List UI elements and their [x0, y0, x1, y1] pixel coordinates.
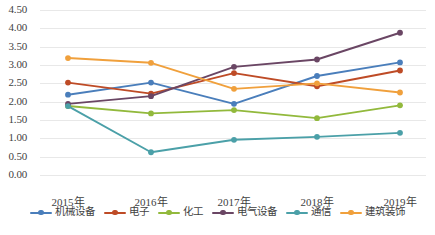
- gridline: [40, 175, 426, 176]
- y-axis-tick-label: 2.50: [0, 77, 27, 88]
- data-point: [231, 86, 237, 92]
- data-point: [231, 101, 237, 107]
- series-lines: [40, 10, 426, 175]
- legend-item-建筑装饰[interactable]: 建筑装饰: [340, 207, 405, 218]
- data-point: [397, 30, 403, 36]
- legend-item-电气设备[interactable]: 电气设备: [212, 207, 277, 218]
- series-电子: [65, 68, 403, 97]
- data-point: [397, 102, 403, 108]
- y-axis-tick-label: 1.00: [0, 132, 27, 143]
- data-point: [314, 73, 320, 79]
- data-point: [148, 80, 154, 86]
- data-point: [148, 93, 154, 99]
- data-point: [65, 55, 71, 61]
- series-电气设备: [65, 30, 403, 107]
- legend-label: 电气设备: [237, 207, 277, 218]
- legend-label: 建筑装饰: [365, 207, 405, 218]
- y-axis-tick-label: 1.50: [0, 114, 27, 125]
- data-point: [314, 57, 320, 63]
- data-point: [314, 80, 320, 86]
- data-point: [231, 70, 237, 76]
- legend-marker-icon: [104, 208, 126, 217]
- y-axis-tick-label: 4.50: [0, 4, 27, 15]
- y-axis-tick-label: 4.00: [0, 22, 27, 33]
- data-point: [65, 103, 71, 109]
- data-point: [65, 92, 71, 98]
- legend-item-机械设备[interactable]: 机械设备: [30, 207, 95, 218]
- y-axis-tick-label: 0.00: [0, 169, 27, 180]
- data-point: [397, 60, 403, 66]
- data-point: [148, 111, 154, 117]
- data-point: [314, 115, 320, 121]
- line-chart: 0.000.501.001.502.002.503.003.504.004.50…: [0, 0, 435, 235]
- y-axis-tick-label: 0.50: [0, 151, 27, 162]
- y-axis-tick-label: 3.00: [0, 59, 27, 70]
- legend-marker-icon: [158, 208, 180, 217]
- data-point: [314, 134, 320, 140]
- chart-legend: 机械设备电子化工电气设备通信建筑装饰: [0, 207, 435, 218]
- data-point: [397, 130, 403, 136]
- legend-item-通信[interactable]: 通信: [286, 207, 331, 218]
- y-axis-tick-label: 2.00: [0, 96, 27, 107]
- legend-label: 机械设备: [55, 207, 95, 218]
- data-point: [231, 64, 237, 70]
- legend-marker-icon: [30, 208, 52, 217]
- legend-item-电子[interactable]: 电子: [104, 207, 149, 218]
- legend-marker-icon: [286, 208, 308, 217]
- legend-label: 化工: [183, 207, 203, 218]
- data-point: [148, 60, 154, 66]
- data-point: [397, 68, 403, 74]
- data-point: [397, 90, 403, 96]
- data-point: [65, 80, 71, 86]
- data-point: [231, 137, 237, 143]
- data-point: [231, 107, 237, 113]
- legend-marker-icon: [340, 208, 362, 217]
- legend-item-化工[interactable]: 化工: [158, 207, 203, 218]
- legend-label: 电子: [129, 207, 149, 218]
- legend-label: 通信: [311, 207, 331, 218]
- y-axis-tick-label: 3.50: [0, 41, 27, 52]
- legend-marker-icon: [212, 208, 234, 217]
- plot-area: 0.000.501.001.502.002.503.003.504.004.50…: [40, 10, 426, 175]
- data-point: [148, 149, 154, 155]
